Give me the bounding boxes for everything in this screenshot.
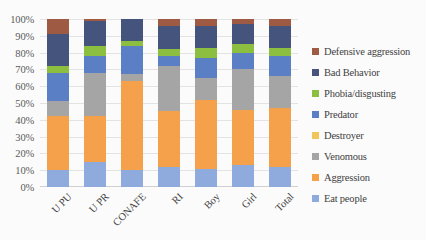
bar-segment[interactable] [47, 34, 69, 66]
legend-item[interactable]: Predator [312, 104, 424, 125]
bar-column[interactable] [47, 19, 69, 187]
bar-segment[interactable] [195, 26, 217, 48]
bar-segment[interactable] [158, 66, 180, 111]
legend-item[interactable]: Venomous [312, 146, 424, 167]
bar-segment[interactable] [269, 19, 291, 26]
legend-swatch-icon [312, 69, 319, 76]
bars-layer [40, 19, 298, 187]
bar-segment[interactable] [232, 69, 254, 109]
bar-column[interactable] [269, 19, 291, 187]
bar-segment[interactable] [158, 56, 180, 66]
legend-item[interactable]: Phobia/disgusting [312, 83, 424, 104]
bar-segment[interactable] [232, 165, 254, 187]
x-axis-tick-label: U PU [50, 191, 74, 215]
bar-column[interactable] [232, 19, 254, 187]
bar-segment[interactable] [269, 26, 291, 48]
bar-segment[interactable] [47, 66, 69, 73]
bar-segment[interactable] [195, 169, 217, 187]
bar-segment[interactable] [195, 78, 217, 100]
bar-column[interactable] [195, 19, 217, 187]
bar-segment[interactable] [84, 46, 106, 56]
bar-segment[interactable] [84, 73, 106, 117]
y-axis-tick-label: 10% [15, 165, 34, 176]
y-axis-tick-label: 40% [15, 114, 34, 125]
bar-segment[interactable] [84, 162, 106, 187]
bar-segment[interactable] [269, 167, 291, 187]
legend-item[interactable]: Destroyer [312, 125, 424, 146]
legend-item-label: Bad Behavior [324, 67, 380, 78]
bar-column[interactable] [84, 19, 106, 187]
bar-segment[interactable] [195, 19, 217, 26]
legend-swatch-icon [312, 48, 319, 55]
bar-segment[interactable] [269, 108, 291, 167]
legend-item[interactable]: Defensive aggression [312, 41, 424, 62]
bar-segment[interactable] [84, 116, 106, 161]
bar-segment[interactable] [269, 56, 291, 76]
plot-area [40, 19, 298, 187]
bar-segment[interactable] [121, 170, 143, 187]
legend-item[interactable]: Aggression [312, 167, 424, 188]
legend-item-label: Aggression [324, 172, 370, 183]
y-axis-tick-label: 20% [15, 148, 34, 159]
bar-segment[interactable] [195, 58, 217, 78]
legend-item-label: Eat people [324, 193, 367, 204]
legend-swatch-icon [312, 90, 319, 97]
bar-segment[interactable] [84, 19, 106, 21]
bar-segment[interactable] [121, 19, 143, 41]
bar-segment[interactable] [269, 48, 291, 56]
x-axis-tick-label: Girl [239, 191, 258, 210]
bar-segment[interactable] [232, 44, 254, 52]
bar-segment[interactable] [269, 76, 291, 108]
legend-swatch-icon [312, 153, 319, 160]
bar-segment[interactable] [47, 101, 69, 116]
bar-segment[interactable] [232, 53, 254, 70]
bar-column[interactable] [121, 19, 143, 187]
bar-segment[interactable] [84, 21, 106, 46]
bar-column[interactable] [158, 19, 180, 187]
y-axis-tick-label: 90% [15, 30, 34, 41]
bar-segment[interactable] [121, 46, 143, 75]
bar-segment[interactable] [47, 116, 69, 170]
legend-item-label: Phobia/disgusting [324, 88, 396, 99]
y-axis-tick-label: 60% [15, 81, 34, 92]
bar-segment[interactable] [232, 110, 254, 165]
stacked-bar-chart: 100%90%80%70%60%50%40%30%20%10%0% U PUU … [0, 0, 426, 240]
bar-segment[interactable] [47, 19, 69, 34]
bar-segment[interactable] [158, 49, 180, 56]
x-axis-tick-label: U PR [87, 191, 111, 215]
legend-item-label: Venomous [324, 151, 367, 162]
bar-segment[interactable] [158, 26, 180, 50]
bar-segment[interactable] [47, 73, 69, 102]
bar-segment[interactable] [232, 24, 254, 44]
bar-segment[interactable] [121, 74, 143, 81]
x-axis-tick-label: RI [170, 191, 185, 206]
x-axis: U PUU PRCONAFERIBoyGirlTotal [40, 187, 298, 240]
legend-item-label: Destroyer [324, 130, 364, 141]
bar-segment[interactable] [84, 56, 106, 73]
bar-segment[interactable] [47, 170, 69, 187]
bar-segment[interactable] [232, 19, 254, 24]
x-axis-tick-label: CONAFE [111, 191, 148, 228]
legend-item[interactable]: Bad Behavior [312, 62, 424, 83]
y-axis-tick-label: 100% [10, 14, 34, 25]
bar-segment[interactable] [158, 111, 180, 166]
y-axis: 100%90%80%70%60%50%40%30%20%10%0% [0, 19, 38, 187]
legend-swatch-icon [312, 174, 319, 181]
legend-swatch-icon [312, 195, 319, 202]
legend-item-label: Defensive aggression [324, 46, 410, 57]
bar-segment[interactable] [121, 41, 143, 46]
chart-legend: Defensive aggressionBad BehaviorPhobia/d… [312, 41, 424, 209]
legend-item-label: Predator [324, 109, 358, 120]
bar-segment[interactable] [121, 81, 143, 170]
legend-swatch-icon [312, 111, 319, 118]
legend-item[interactable]: Eat people [312, 188, 424, 209]
x-axis-tick-label: Boy [202, 191, 222, 211]
y-axis-tick-label: 30% [15, 131, 34, 142]
y-axis-tick-label: 70% [15, 64, 34, 75]
bar-segment[interactable] [158, 167, 180, 187]
x-axis-tick-label: Total [273, 191, 296, 214]
bar-segment[interactable] [195, 48, 217, 58]
bar-segment[interactable] [195, 100, 217, 169]
y-axis-tick-label: 80% [15, 47, 34, 58]
bar-segment[interactable] [158, 19, 180, 26]
